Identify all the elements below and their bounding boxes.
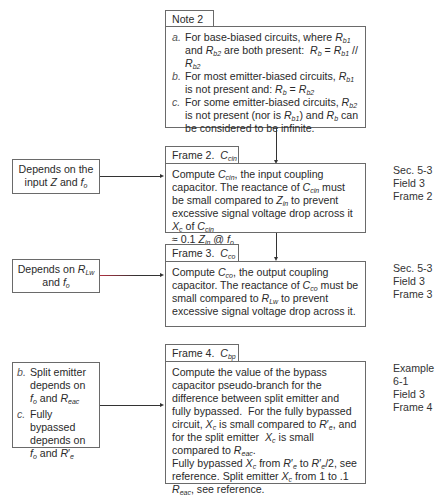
note-2-title: Note 2 [172, 13, 203, 25]
connector-frame2-to-frame3 [276, 233, 277, 258]
frame-4-input-box: b.Split emitter depends on fo and Reac c… [12, 362, 100, 448]
connector-input-to-frame2 [100, 176, 161, 177]
note-item-a: a.For base-biased circuits, where Rb1 an… [172, 31, 359, 70]
frame-4-text: Compute the value of the bypass capacito… [166, 362, 365, 499]
connector-note-to-frame2 [276, 128, 277, 161]
frame-4-title-tab: Frame 4. Cbp [165, 344, 239, 362]
frame-2-title-tab: Frame 2. Ccin [165, 146, 239, 164]
frame-2-input-box: Depends on the input Z and fo [12, 159, 100, 194]
connector-input-to-frame3 [100, 275, 161, 276]
input-item-c: c.Fully bypassed depends on fo and R′e [17, 408, 95, 460]
note-item-b: b.For most emitter-biased circuits, Rb1 … [172, 70, 359, 96]
frame-4-box: Compute the value of the bypass capacito… [165, 361, 366, 484]
note-2-box: a.For base-biased circuits, where Rb1 an… [165, 26, 366, 128]
frame-4-reference: Example 6-1 Field 3 Frame 4 [393, 362, 446, 414]
connector-input-to-frame4 [100, 405, 161, 406]
frame-3-box: Compute Cco, the output coupling capacit… [165, 261, 366, 327]
input-item-b: b.Split emitter depends on fo and Reac [17, 366, 95, 405]
arrow-right-icon [160, 273, 164, 277]
frame-3-reference: Sec. 5-3 Field 3 Frame 3 [393, 262, 432, 301]
arrow-right-icon [160, 403, 164, 407]
frame-3-title-tab: Frame 3. Cco [165, 244, 239, 262]
note-2-title-tab: Note 2 [165, 10, 214, 27]
frame-2-box: Compute Ccin, the input coupling capacit… [165, 163, 366, 233]
frame-2-reference: Sec. 5-3 Field 3 Frame 2 [393, 164, 432, 203]
frame-3-text: Compute Cco, the output coupling capacit… [166, 262, 365, 322]
note-item-c: c.For some emitter-biased circuits, Rb2 … [172, 96, 359, 135]
arrow-right-icon [160, 174, 164, 178]
frame-2-text: Compute Ccin, the input coupling capacit… [166, 164, 365, 250]
frame-3-input-box: Depends on RLw and fo [12, 259, 100, 293]
